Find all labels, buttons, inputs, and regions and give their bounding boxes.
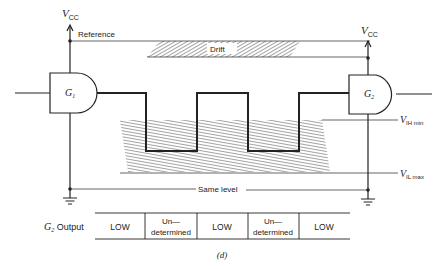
junction-dot: [366, 56, 370, 60]
g2-output-table: G2 Output LOW Un— determined LOW Un— det…: [44, 213, 350, 239]
g2-output-row-label: G2 Output: [44, 221, 84, 233]
ground-icon: [361, 199, 375, 205]
same-level-label: Same level: [198, 185, 238, 194]
table-cell-1: LOW: [110, 222, 129, 232]
logic-level-diagram: VCC Reference Drift VCC G1 VIH min VIL m…: [0, 0, 445, 269]
drift-label: Drift: [210, 45, 225, 54]
table-cell-2-line1: Un—: [162, 217, 180, 226]
table-cell-4-line2: determined: [253, 228, 293, 237]
ground-left: [63, 189, 77, 204]
vcc-left: VCC Reference: [62, 7, 115, 73]
gate-g1: G1: [15, 73, 97, 189]
table-cell-2-line2: determined: [151, 228, 191, 237]
vil-max-label: VIL max: [400, 168, 424, 180]
drift-band: Drift: [147, 41, 368, 57]
table-cell-3: LOW: [212, 222, 231, 232]
vcc-right-label: VCC: [361, 24, 378, 38]
vcc-right: VCC: [361, 24, 378, 75]
ground-right: [361, 190, 375, 205]
ground-icon: [63, 198, 77, 204]
table-cell-4-line1: Un—: [264, 217, 282, 226]
table-cell-5: LOW: [314, 222, 333, 232]
vcc-left-label: VCC: [62, 7, 79, 21]
vih-min-label: VIH min: [400, 114, 423, 126]
figure-caption: (d): [217, 250, 228, 260]
same-level: Same level: [68, 185, 370, 194]
reference-label: Reference: [78, 30, 115, 39]
